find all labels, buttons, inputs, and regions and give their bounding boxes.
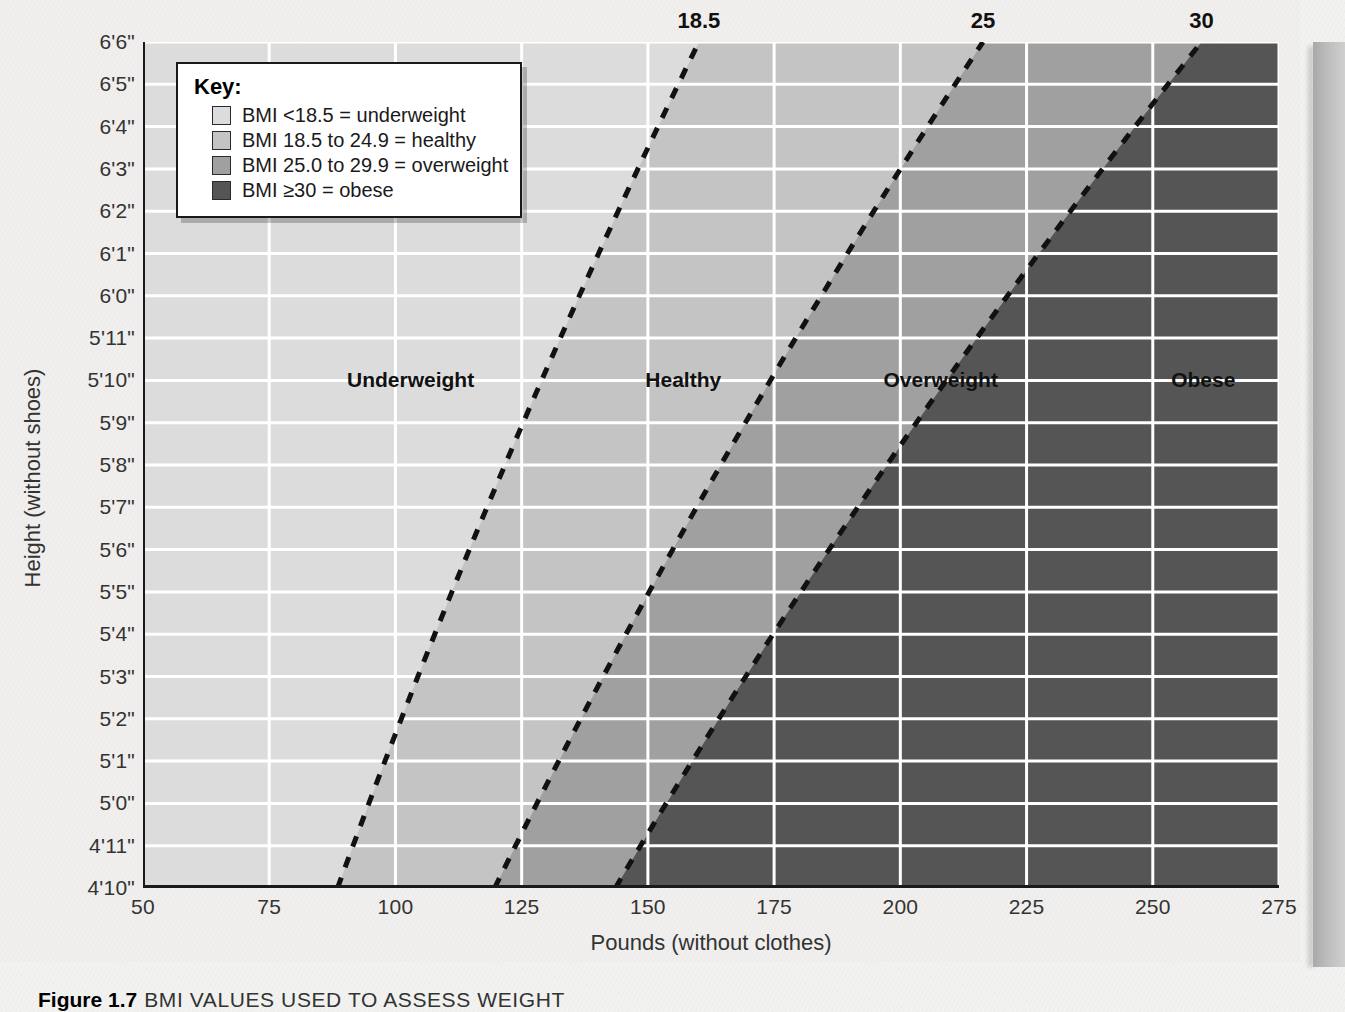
- y-tick-label: 5'11": [89, 326, 135, 350]
- region-label: Healthy: [645, 368, 721, 392]
- x-tick-label: 50: [131, 895, 155, 919]
- top-bmi-label: 18.5: [677, 8, 720, 34]
- y-tick-label: 5'8": [99, 453, 135, 477]
- top-bmi-label: 25: [971, 8, 995, 34]
- y-tick-label: 4'10": [87, 876, 135, 900]
- y-tick-label: 5'5": [99, 580, 135, 604]
- x-tick-label: 75: [257, 895, 281, 919]
- legend-item: BMI 25.0 to 29.9 = overweight: [212, 154, 506, 177]
- y-tick-label: 6'5": [99, 72, 135, 96]
- legend-swatch-icon: [212, 106, 231, 125]
- y-tick-label: 6'0": [99, 284, 135, 308]
- legend-item-label: BMI <18.5 = underweight: [242, 104, 465, 127]
- legend-item-label: BMI 25.0 to 29.9 = overweight: [242, 154, 508, 177]
- top-bmi-label: 30: [1189, 8, 1213, 34]
- legend-item: BMI ≥30 = obese: [212, 179, 506, 202]
- legend-items: BMI <18.5 = underweightBMI 18.5 to 24.9 …: [194, 104, 506, 202]
- y-tick-label: 5'7": [99, 495, 135, 519]
- legend-swatch-icon: [212, 131, 231, 150]
- legend-title: Key:: [194, 74, 506, 100]
- x-axis-tick-labels: 5075100125150175200225250275: [143, 895, 1279, 925]
- legend-item-label: BMI ≥30 = obese: [242, 179, 394, 202]
- x-tick-label: 225: [1009, 895, 1045, 919]
- region-label: Overweight: [884, 368, 998, 392]
- y-tick-label: 5'1": [99, 749, 135, 773]
- x-tick-label: 150: [630, 895, 666, 919]
- y-tick-label: 5'6": [99, 538, 135, 562]
- x-tick-label: 125: [504, 895, 540, 919]
- x-tick-label: 275: [1261, 895, 1297, 919]
- caption-figure-number: Figure 1.7: [38, 988, 137, 1011]
- legend-key-box: Key: BMI <18.5 = underweightBMI 18.5 to …: [176, 62, 522, 218]
- figure-caption: Figure 1.7BMI VALUES USED TO ASSESS WEIG…: [38, 988, 1278, 1012]
- x-tick-label: 100: [378, 895, 414, 919]
- y-tick-label: 5'0": [99, 791, 135, 815]
- x-axis-title: Pounds (without clothes): [143, 930, 1279, 956]
- y-tick-label: 5'10": [87, 368, 135, 392]
- caption-title: BMI VALUES USED TO ASSESS WEIGHT: [144, 988, 565, 1011]
- y-tick-label: 6'1": [99, 242, 135, 266]
- y-tick-label: 5'4": [99, 622, 135, 646]
- top-bmi-boundary-labels: 18.52530: [143, 8, 1279, 38]
- y-axis-tick-labels: 6'6"6'5"6'4"6'3"6'2"6'1"6'0"5'11"5'10"5'…: [55, 42, 135, 888]
- y-tick-label: 5'3": [99, 665, 135, 689]
- x-tick-label: 250: [1135, 895, 1171, 919]
- y-tick-label: 4'11": [89, 834, 135, 858]
- x-tick-label: 200: [883, 895, 919, 919]
- legend-item: BMI 18.5 to 24.9 = healthy: [212, 129, 506, 152]
- legend-item: BMI <18.5 = underweight: [212, 104, 506, 127]
- y-tick-label: 5'2": [99, 707, 135, 731]
- legend-swatch-icon: [212, 181, 231, 200]
- y-axis-title: Height (without shoes): [20, 328, 46, 628]
- legend-item-label: BMI 18.5 to 24.9 = healthy: [242, 129, 476, 152]
- y-tick-label: 6'3": [99, 157, 135, 181]
- y-tick-label: 6'4": [99, 115, 135, 139]
- region-label: Obese: [1171, 368, 1235, 392]
- y-tick-label: 6'2": [99, 199, 135, 223]
- y-tick-label: 5'9": [99, 411, 135, 435]
- legend-swatch-icon: [212, 156, 231, 175]
- y-tick-label: 6'6": [99, 30, 135, 54]
- right-margin-strip: [1313, 42, 1345, 967]
- region-label: Underweight: [347, 368, 474, 392]
- x-tick-label: 175: [756, 895, 792, 919]
